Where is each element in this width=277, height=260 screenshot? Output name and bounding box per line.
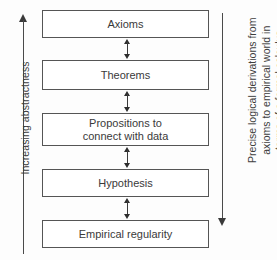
node-label-empirical-regularity: Empirical regularity (79, 228, 173, 241)
right-axis-precise-logical-derivations: Precise logical derivations from axioms … (214, 13, 277, 243)
arrow-down-icon (124, 163, 130, 168)
right-axis-label: Precise logical derivations from axioms … (246, 0, 277, 180)
node-label-propositions: Propositions to connect with data (83, 117, 169, 143)
node-stack: Axioms Theorems Propositions to connect … (42, 0, 211, 260)
node-box-axioms[interactable]: Axioms (42, 10, 209, 38)
node-label-propositions-line1: Propositions to (89, 117, 162, 129)
left-axis-label: Increasing abstractness (19, 38, 31, 198)
right-axis-label-line1: Precise logical derivations from (246, 0, 260, 180)
node-label-propositions-line2: connect with data (83, 130, 169, 142)
arrow-down-icon (218, 218, 226, 226)
node-box-hypothesis[interactable]: Hypothesis (42, 169, 209, 197)
arrow-down-icon (124, 107, 130, 112)
left-axis-increasing-abstractness: Increasing abstractness (8, 14, 40, 254)
right-axis-label-line2: axioms to empirical world in (259, 0, 273, 180)
right-axis-line (222, 13, 223, 220)
diagram-canvas: Increasing abstractness Axioms Theorems … (0, 0, 277, 260)
node-box-theorems[interactable]: Theorems (42, 60, 209, 90)
node-label-hypothesis: Hypothesis (98, 177, 152, 190)
connector-propositions-hypothesis (123, 147, 132, 168)
right-axis-label-line3: terms of a formal calculus (273, 0, 277, 180)
connector-axioms-theorems (123, 39, 132, 59)
node-label-axioms: Axioms (107, 18, 143, 31)
node-box-empirical-regularity[interactable]: Empirical regularity (42, 220, 209, 248)
node-label-theorems: Theorems (101, 69, 151, 82)
node-box-propositions[interactable]: Propositions to connect with data (42, 113, 209, 146)
connector-hypothesis-empirical (123, 198, 132, 219)
arrow-down-icon (124, 214, 130, 219)
connector-theorems-propositions (123, 91, 132, 112)
arrow-down-icon (124, 54, 130, 59)
